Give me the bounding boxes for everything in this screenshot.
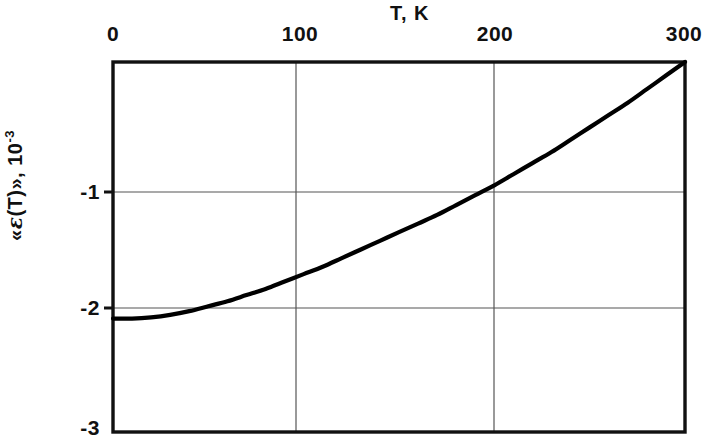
plot-frame <box>113 62 685 432</box>
plot-area <box>0 0 715 447</box>
gridlines <box>113 62 685 432</box>
data-series-curve <box>113 62 685 319</box>
chart-figure: T, K «ε(T)», 10-3 0 100 200 300 -1 -2 -3 <box>0 0 715 447</box>
